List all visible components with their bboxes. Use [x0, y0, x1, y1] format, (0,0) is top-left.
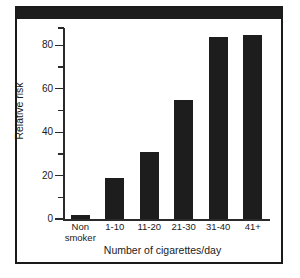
y-axis-tick-label: 40: [23, 127, 53, 137]
x-axis-tick-label: 41+: [226, 222, 280, 233]
figure-container: 020406080 Relative risk Nonsmoker1-1011-…: [0, 0, 300, 278]
bar: [140, 152, 159, 219]
x-axis-title: Number of cigarettes/day: [45, 244, 280, 256]
x-axis-tick-label-line: smoker: [53, 233, 107, 244]
x-axis-line: [63, 219, 270, 221]
bar: [174, 100, 193, 219]
bar: [105, 178, 124, 219]
bar: [243, 35, 262, 219]
y-axis-tick-label: 80: [23, 40, 53, 50]
y-axis-title: Relative risk: [13, 61, 25, 161]
bar: [71, 215, 90, 219]
bar: [209, 37, 228, 219]
x-axis-tick-label-line: 41+: [226, 222, 280, 233]
frame-top-bar: [17, 8, 281, 19]
bar-series: [63, 28, 270, 219]
y-axis-tick-label: 0: [23, 214, 53, 224]
y-axis-tick-label: 60: [23, 84, 53, 94]
y-axis-tick-label: 20: [23, 171, 53, 181]
